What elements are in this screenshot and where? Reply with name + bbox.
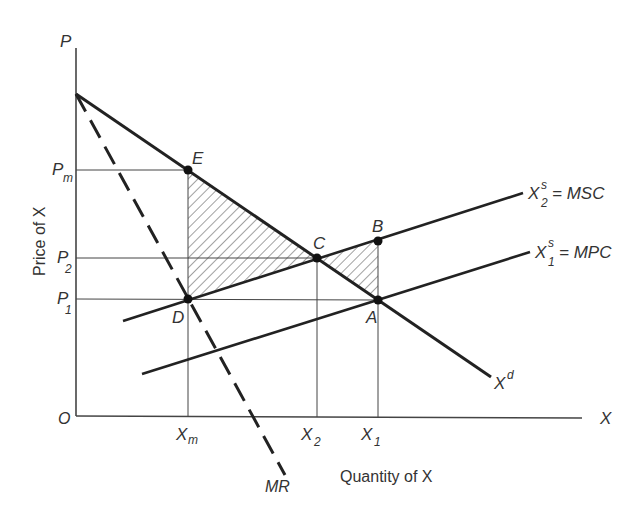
x-axis-title: Quantity of X xyxy=(340,468,433,485)
msc-curve xyxy=(123,193,523,321)
point-label-e: E xyxy=(192,149,204,168)
y-axis-title: Price of X xyxy=(31,206,48,276)
quantity-tick-x1: X 1 xyxy=(360,425,381,449)
point-label-a: A xyxy=(365,308,377,327)
point-label-c: C xyxy=(313,234,326,253)
externality-diagram: E C B D A P X O Price of X Quantity of X… xyxy=(0,0,644,527)
svg-text:s: s xyxy=(541,178,547,192)
svg-text:X: X xyxy=(300,425,313,444)
mr-curve xyxy=(76,94,285,475)
quantity-tick-xm: X m xyxy=(175,425,198,447)
svg-text:d: d xyxy=(507,368,514,382)
origin-label: O xyxy=(58,410,70,427)
price-tick-pm: P m xyxy=(52,160,73,185)
svg-text:1: 1 xyxy=(65,303,72,317)
svg-text:2: 2 xyxy=(313,435,321,449)
svg-text:2: 2 xyxy=(540,196,548,210)
quantity-tick-x2: X 2 xyxy=(300,425,321,449)
svg-text:= MPC: = MPC xyxy=(559,243,612,262)
msc-label: X s 2 = MSC xyxy=(527,178,605,210)
svg-text:= MSC: = MSC xyxy=(552,184,605,203)
svg-text:X: X xyxy=(527,184,540,203)
price-tick-p1: P 1 xyxy=(57,289,72,317)
price-tick-p2: P 2 xyxy=(57,248,72,276)
demand-curve xyxy=(76,94,491,377)
svg-text:1: 1 xyxy=(548,255,555,269)
mpc-label: X s 1 = MPC xyxy=(534,236,612,269)
x-axis xyxy=(76,416,582,418)
svg-text:s: s xyxy=(548,236,554,250)
svg-text:X: X xyxy=(534,243,547,262)
svg-text:m: m xyxy=(188,433,198,447)
svg-text:X: X xyxy=(175,425,188,444)
x-axis-letter: X xyxy=(599,409,612,428)
point-label-b: B xyxy=(372,217,383,236)
svg-text:1: 1 xyxy=(374,435,381,449)
y-axis-letter: P xyxy=(60,32,72,51)
point-label-d: D xyxy=(172,308,184,327)
svg-text:2: 2 xyxy=(64,262,72,276)
mr-label: MR xyxy=(265,478,290,495)
svg-text:X: X xyxy=(493,374,506,393)
svg-text:m: m xyxy=(63,171,73,185)
svg-text:X: X xyxy=(360,425,373,444)
demand-label: X d xyxy=(493,368,514,393)
